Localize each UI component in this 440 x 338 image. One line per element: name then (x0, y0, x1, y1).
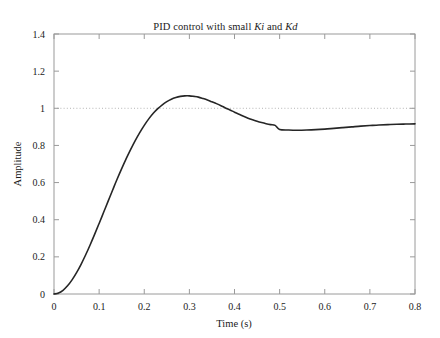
x-tick-label: 0.1 (93, 301, 106, 312)
x-tick-label: 0.3 (183, 301, 196, 312)
chart-figure: PID control with small Ki and Kd 00.20.4… (0, 0, 440, 338)
x-tick-label: 0.2 (138, 301, 151, 312)
x-tick-label: 0.7 (364, 301, 377, 312)
x-axis-tick-labels: 00.10.20.30.40.50.60.70.8 (52, 301, 422, 312)
x-tick-label: 0.8 (409, 301, 422, 312)
x-tick-label: 0.5 (273, 301, 286, 312)
y-tick-label: 0.4 (33, 214, 46, 225)
plot-frame (54, 34, 415, 294)
y-tick-label: 0 (40, 289, 45, 300)
y-tick-label: 1 (40, 103, 45, 114)
y-tick-label: 1.2 (33, 66, 46, 77)
y-tick-label: 0.2 (33, 251, 46, 262)
y-tick-label: 0.6 (33, 177, 46, 188)
y-tick-label: 1.4 (33, 29, 46, 40)
y-axis-title: Amplitude (12, 141, 23, 186)
x-tick-label: 0 (52, 301, 57, 312)
y-tick-label: 0.8 (33, 140, 46, 151)
y-axis-tick-labels: 00.20.40.60.811.21.4 (33, 29, 46, 300)
x-tick-label: 0.4 (228, 301, 241, 312)
plot-area: 00.20.40.60.811.21.4 00.10.20.30.40.50.6… (0, 0, 440, 338)
x-axis-title: Time (s) (216, 318, 252, 330)
x-tick-label: 0.6 (319, 301, 332, 312)
